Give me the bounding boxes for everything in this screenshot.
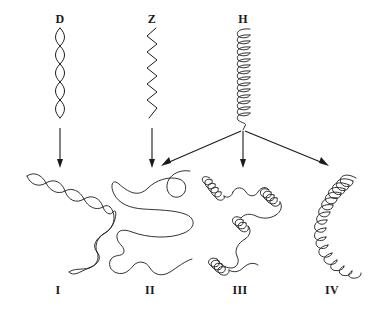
- label-I: I: [46, 284, 70, 296]
- label-III: III: [228, 284, 252, 296]
- label-D: D: [48, 13, 72, 25]
- structure-Z-zigzag: [147, 28, 157, 118]
- structure-II-random-coil: [110, 171, 194, 275]
- arrow-d-to-i: [57, 128, 63, 168]
- arrow-h-to-iv: [245, 131, 329, 166]
- arrow-h-to-ii: [161, 131, 241, 166]
- structure-I-curved-double-helix: [27, 174, 116, 274]
- label-IV: IV: [320, 284, 344, 296]
- structure-IV-curved-helix: [314, 175, 361, 278]
- structure-D-double-helix: [56, 28, 65, 118]
- arrow-h-to-iii: [240, 131, 246, 168]
- structure-H-helix: [236, 29, 250, 130]
- polymer-conformation-diagram: [0, 0, 372, 313]
- arrow-z-to-ii: [149, 128, 155, 168]
- structure-III-mixed-helix-coil: [202, 177, 281, 276]
- label-H: H: [231, 13, 255, 25]
- label-Z: Z: [140, 13, 164, 25]
- label-II: II: [138, 284, 162, 296]
